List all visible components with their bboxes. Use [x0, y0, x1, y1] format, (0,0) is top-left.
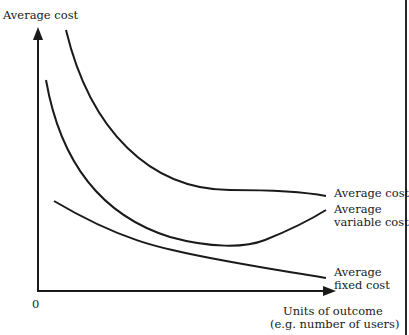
average-variable-cost-label-line2: variable cost — [334, 216, 409, 229]
average-cost-curve — [66, 30, 326, 196]
average-fixed-cost-curve — [54, 201, 326, 278]
y-axis-label: Average cost — [3, 9, 78, 22]
average-fixed-cost-label-line2: fixed cost — [334, 279, 390, 292]
average-cost-label: Average cost — [334, 187, 409, 200]
average-variable-cost-curve — [46, 80, 326, 246]
origin-label: 0 — [32, 298, 39, 311]
y-axis-arrow-icon — [33, 27, 43, 40]
x-axis-label-line2: (e.g. number of users) — [270, 318, 400, 331]
